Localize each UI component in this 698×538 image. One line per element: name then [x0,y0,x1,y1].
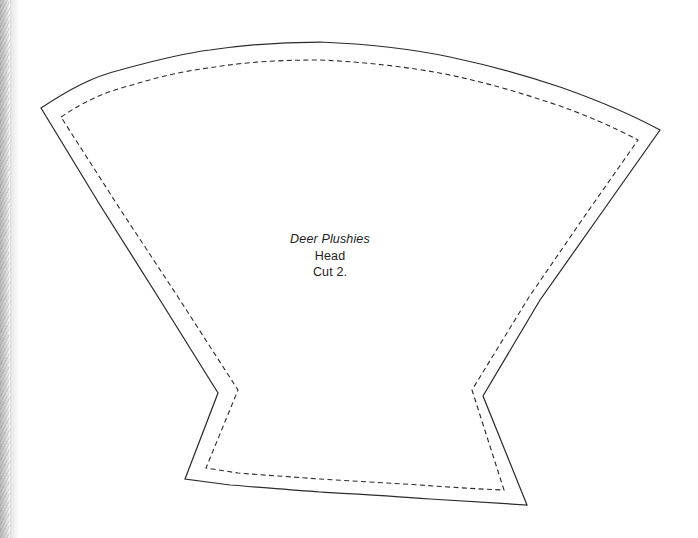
pattern-label-part: Head [230,248,430,265]
pattern-label-title: Deer Plushies [230,231,430,248]
pattern-label: Deer Plushies Head Cut 2. [230,231,430,281]
pattern-page: Deer Plushies Head Cut 2. [0,0,698,538]
pattern-label-quantity: Cut 2. [230,264,430,281]
